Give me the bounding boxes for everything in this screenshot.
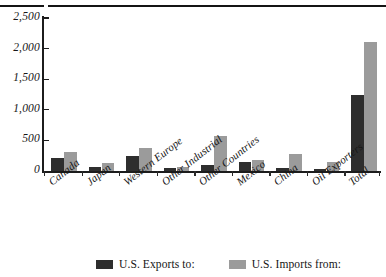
y-axis-tick [43, 79, 49, 80]
legend-swatch-imports-icon [229, 260, 246, 269]
x-axis-tick [157, 171, 158, 176]
bar-group [89, 18, 115, 171]
y-axis-tick [43, 109, 49, 110]
y-axis-tick-label: 1,000 [13, 102, 40, 114]
x-axis-tick [119, 171, 120, 176]
bar-group [314, 18, 340, 171]
bar-group [276, 18, 302, 171]
x-axis-tick [269, 171, 270, 176]
y-axis-tick [43, 17, 49, 18]
legend-label-exports: U.S. Exports to: [119, 258, 195, 270]
x-axis-tick [344, 171, 345, 176]
legend-label-imports: U.S. Imports from: [252, 258, 341, 270]
y-axis-tick-label: 1,500 [13, 71, 40, 83]
legend-item-exports: U.S. Exports to: [96, 258, 195, 270]
x-axis-tick [82, 171, 83, 176]
x-axis-tick [44, 171, 45, 176]
y-axis-tick [43, 140, 49, 141]
x-axis-tick [232, 171, 233, 176]
bar-imports [364, 42, 377, 171]
y-axis-tick-label: 2,000 [13, 41, 40, 53]
y-axis-tick-label: 0 [34, 163, 40, 175]
y-axis-tick [43, 48, 49, 49]
bar-group [51, 18, 77, 171]
bar-chart: 05001,0001,5002,0002,500 U.S. Exports to… [0, 0, 386, 277]
x-axis-tick [194, 171, 195, 176]
chart-legend: U.S. Exports to: U.S. Imports from: [96, 258, 341, 270]
y-axis-tick-label: 500 [22, 132, 40, 144]
legend-item-imports: U.S. Imports from: [229, 258, 341, 270]
y-axis-labels: 05001,0001,5002,0002,500 [0, 0, 40, 277]
legend-swatch-exports-icon [96, 260, 113, 269]
bar-group [126, 18, 152, 171]
y-axis-tick-label: 2,500 [13, 10, 40, 22]
bar-exports [351, 95, 364, 172]
x-axis-tick [379, 171, 380, 176]
x-axis-tick [307, 171, 308, 176]
